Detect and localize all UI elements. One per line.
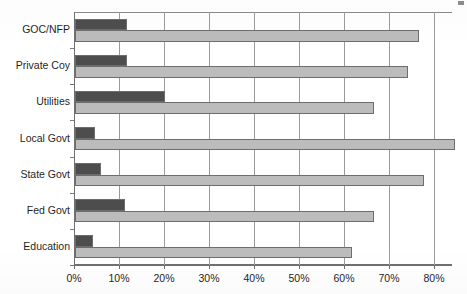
bar-utilities-series-2 xyxy=(75,102,374,114)
bar-education-series-2 xyxy=(75,247,352,259)
x-tick-20 xyxy=(164,265,165,269)
x-tick-label-10: 10% xyxy=(99,272,139,284)
bar-goc-nfp-series-1 xyxy=(75,19,127,31)
bar-local-govt-series-2 xyxy=(75,139,455,151)
x-tick-10 xyxy=(119,265,120,269)
plot-area xyxy=(74,12,452,265)
y-tick-0 xyxy=(70,48,74,49)
x-tick-80 xyxy=(434,265,435,269)
y-tick-3 xyxy=(70,157,74,158)
y-label-local-govt: Local Govt xyxy=(4,133,70,144)
x-tick-30 xyxy=(209,265,210,269)
bar-state-govt-series-1 xyxy=(75,163,101,175)
page-corner-mark xyxy=(458,1,464,5)
y-label-private-coy: Private Coy xyxy=(4,60,70,71)
bar-state-govt-series-2 xyxy=(75,175,424,187)
y-label-utilities: Utilities xyxy=(4,96,70,107)
x-tick-0 xyxy=(74,265,75,269)
y-axis-category-labels: GOC/NFPPrivate CoyUtilitiesLocal GovtSta… xyxy=(0,12,70,265)
x-tick-label-70: 70% xyxy=(369,272,409,284)
x-tick-label-20: 20% xyxy=(144,272,184,284)
x-tick-label-80: 80% xyxy=(414,272,454,284)
bar-goc-nfp-series-2 xyxy=(75,30,419,42)
y-tick-5 xyxy=(70,229,74,230)
x-tick-50 xyxy=(299,265,300,269)
bar-fed-govt-series-1 xyxy=(75,199,125,211)
x-tick-70 xyxy=(389,265,390,269)
y-tick-4 xyxy=(70,193,74,194)
bar-utilities-series-1 xyxy=(75,91,165,103)
y-label-state-govt: State Govt xyxy=(4,169,70,180)
x-tick-label-0: 0% xyxy=(54,272,94,284)
y-tick-2 xyxy=(70,120,74,121)
y-label-fed-govt: Fed Govt xyxy=(4,205,70,216)
x-tick-40 xyxy=(254,265,255,269)
x-tick-label-50: 50% xyxy=(279,272,319,284)
plot-top-border xyxy=(74,12,452,13)
bar-private-coy-series-1 xyxy=(75,55,127,67)
x-tick-60 xyxy=(344,265,345,269)
x-axis-line xyxy=(73,265,452,266)
bar-education-series-1 xyxy=(75,235,93,247)
y-tick-1 xyxy=(70,84,74,85)
x-axis: 0%10%20%30%40%50%60%70%80% xyxy=(74,265,452,294)
bar-chart: GOC/NFPPrivate CoyUtilitiesLocal GovtSta… xyxy=(0,0,467,294)
x-tick-label-40: 40% xyxy=(234,272,274,284)
cut-off-title xyxy=(150,0,335,4)
x-tick-label-60: 60% xyxy=(324,272,364,284)
x-tick-label-30: 30% xyxy=(189,272,229,284)
y-label-goc-nfp: GOC/NFP xyxy=(4,24,70,35)
bar-private-coy-series-2 xyxy=(75,66,408,78)
y-label-education: Education xyxy=(4,241,70,252)
bar-fed-govt-series-2 xyxy=(75,211,374,223)
bar-local-govt-series-1 xyxy=(75,127,95,139)
